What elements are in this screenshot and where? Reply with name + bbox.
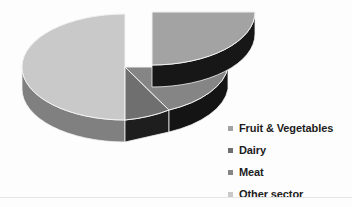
legend-swatch-icon bbox=[228, 148, 233, 153]
legend-item-other-sector[interactable]: Other sector bbox=[228, 183, 352, 205]
legend-item-meat[interactable]: Meat bbox=[228, 161, 352, 183]
pie-chart-figure: Fruit & Vegetables Dairy Meat Other sect… bbox=[0, 0, 352, 207]
legend-item-fruit-vegetables[interactable]: Fruit & Vegetables bbox=[228, 117, 352, 139]
legend-label: Meat bbox=[239, 166, 264, 178]
legend-label: Other sector bbox=[239, 188, 303, 200]
pie-slice-fruit-vegetables[interactable] bbox=[152, 12, 255, 87]
legend-swatch-icon bbox=[228, 170, 233, 175]
legend-swatch-icon bbox=[228, 126, 233, 131]
legend-swatch-icon bbox=[228, 192, 233, 197]
pie-slice-other-sector[interactable] bbox=[22, 14, 125, 142]
chart-legend: Fruit & Vegetables Dairy Meat Other sect… bbox=[228, 117, 352, 205]
legend-label: Fruit & Vegetables bbox=[239, 122, 333, 134]
legend-label: Dairy bbox=[239, 144, 266, 156]
legend-item-dairy[interactable]: Dairy bbox=[228, 139, 352, 161]
bottom-divider bbox=[0, 197, 352, 198]
